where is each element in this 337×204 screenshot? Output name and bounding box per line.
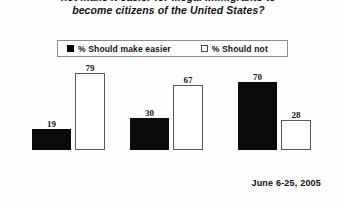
bar-value-label: 30	[145, 108, 154, 118]
plot-area: 19 79 30 67 70 28 Non-Hispanic whites Bl…	[0, 62, 337, 150]
legend-label-should-make-easier: % Should make easier	[78, 44, 171, 54]
bar-hispanics-should-make-easier: 70	[238, 82, 277, 150]
bar-blacks-should-not: 67	[173, 85, 203, 150]
survey-date: June 6-25, 2005	[251, 178, 321, 188]
chart-page: not make it easier for illegal immigrant…	[0, 0, 337, 204]
legend-swatch-filled-icon	[67, 45, 74, 52]
chart-legend: % Should make easier % Should not	[57, 40, 288, 57]
bar-value-label: 19	[47, 119, 56, 129]
title-line-2: become citizens of the United States?	[0, 4, 337, 17]
bar-blacks-should-make-easier: 30	[130, 118, 169, 150]
bar-value-label: 28	[292, 110, 301, 120]
bar-whites-should-not: 79	[75, 73, 105, 150]
chart-title: not make it easier for illegal immigrant…	[0, 0, 337, 17]
bar-value-label: 79	[86, 63, 95, 73]
legend-swatch-hollow-icon	[201, 45, 208, 52]
bar-value-label: 67	[184, 75, 193, 85]
bar-value-label: 70	[253, 72, 262, 82]
bar-hispanics-should-not: 28	[281, 120, 311, 150]
legend-item-should-make-easier: % Should make easier	[67, 44, 171, 54]
bar-whites-should-make-easier: 19	[32, 129, 71, 150]
legend-item-should-not: % Should not	[201, 44, 268, 54]
legend-label-should-not: % Should not	[212, 44, 268, 54]
